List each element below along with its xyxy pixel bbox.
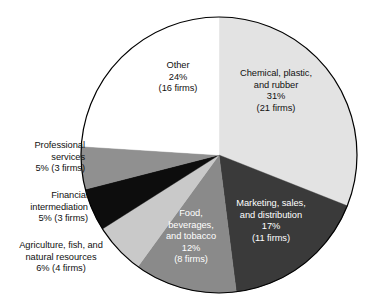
slice-label-chemical-plastic-rubber: Chemical, plastic, and rubber 31% (21 fi…	[214, 68, 338, 114]
professional-label-percent-firms: 5% (3 firms)	[0, 163, 85, 175]
chemical-label-firms: (21 firms)	[214, 103, 338, 115]
financial-label-line-1: Financial	[0, 190, 88, 202]
professional-label-line-1: Professional	[0, 140, 85, 152]
slice-label-professional-services: Professional services 5% (3 firms)	[0, 140, 85, 175]
food-label-line-2: beverages,	[146, 220, 236, 232]
other-label-firms: (16 firms)	[128, 83, 228, 95]
agriculture-label-line-2: natural resources	[0, 252, 122, 264]
slice-label-agriculture-fish-natural-resources: Agriculture, fish, and natural resources…	[0, 240, 122, 275]
financial-label-percent-firms: 5% (3 firms)	[0, 213, 88, 225]
food-label-line-1: Food,	[146, 208, 236, 220]
chemical-label-line-2: and rubber	[214, 80, 338, 92]
food-label-percent: 12%	[146, 243, 236, 255]
slice-label-financial-intermediation: Financial intermediation 5% (3 firms)	[0, 190, 88, 225]
food-label-line-3: and tobacco	[146, 231, 236, 243]
chemical-label-percent: 31%	[214, 91, 338, 103]
chemical-label-line-1: Chemical, plastic,	[214, 68, 338, 80]
other-label-line-1: Other	[128, 60, 228, 72]
slice-label-other: Other 24% (16 firms)	[128, 60, 228, 95]
financial-label-line-2: intermediation	[0, 202, 88, 214]
slice-label-food-beverages-tobacco: Food, beverages, and tobacco 12% (8 firm…	[146, 208, 236, 266]
food-label-firms: (8 firms)	[146, 254, 236, 266]
pie-chart-figure: Chemical, plastic, and rubber 31% (21 fi…	[0, 0, 368, 303]
agriculture-label-percent-firms: 6% (4 firms)	[0, 263, 122, 275]
professional-label-line-2: services	[0, 152, 85, 164]
other-label-percent: 24%	[128, 72, 228, 84]
agriculture-label-line-1: Agriculture, fish, and	[0, 240, 122, 252]
